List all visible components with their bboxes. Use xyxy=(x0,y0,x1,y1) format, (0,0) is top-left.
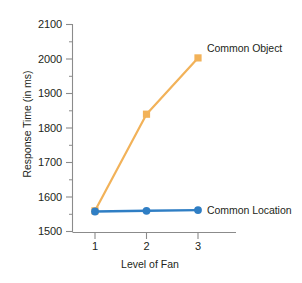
y-axis-major-ticks xyxy=(66,25,73,232)
y-tick-label-1600: 1600 xyxy=(28,191,62,203)
x-tick-label-2: 2 xyxy=(137,240,157,252)
chart-figure: 2100 2000 1900 1800 1700 1600 1500 1 2 3… xyxy=(0,0,302,283)
y-tick-label-1700: 1700 xyxy=(28,156,62,168)
y-tick-label-2100: 2100 xyxy=(28,18,62,30)
x-axis-title: Level of Fan xyxy=(60,258,240,270)
y-tick-label-1500: 1500 xyxy=(28,225,62,237)
x-axis-ticks xyxy=(95,233,198,240)
series-label-common-location: Common Location xyxy=(207,204,291,216)
series-label-common-object: Common Object xyxy=(207,42,282,54)
series-markers-common-object xyxy=(91,54,201,214)
y-tick-label-2000: 2000 xyxy=(28,53,62,65)
x-tick-label-1: 1 xyxy=(85,240,105,252)
y-tick-label-1800: 1800 xyxy=(28,122,62,134)
y-axis-title: Response Time (in ms) xyxy=(21,49,33,199)
x-tick-label-3: 3 xyxy=(188,240,208,252)
series-line-common-object xyxy=(95,58,198,211)
y-tick-label-1900: 1900 xyxy=(28,87,62,99)
